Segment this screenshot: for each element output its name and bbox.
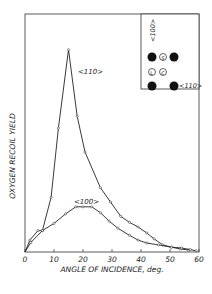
x-axis-ticks: 0102030405060 [23,249,204,264]
atom-filled [148,53,157,62]
data-point [189,249,191,251]
data-point [128,221,130,223]
data-point [75,206,77,208]
data-point [170,246,172,248]
atom-label-c: C [161,70,165,76]
data-point [84,151,86,153]
x-tick-label: 50 [165,255,175,264]
x-tick-label: 40 [136,255,146,264]
data-point [137,239,139,241]
data-point [146,232,148,234]
x-tick-label: 0 [23,255,28,264]
data-point [109,201,111,203]
data-point [67,49,69,51]
inset-label-100: <100> [149,19,157,42]
x-tick-label: 20 [78,255,88,264]
atom-filled [148,82,157,91]
curve-label-110: <110> [78,68,103,76]
data-point [76,115,78,117]
x-tick-label: 60 [194,255,204,264]
data-point [153,238,155,240]
data-point [37,230,39,232]
inset-label-110: <110> [179,82,202,90]
data-point [30,241,32,243]
data-point [181,247,183,249]
atom-filled [170,82,179,91]
data-point [41,230,43,232]
data-point [99,212,101,214]
data-point [120,215,122,217]
inset-crystal-diagram: <100> S L C <110> [141,14,202,91]
curve-label-100: <100> [74,198,99,206]
data-point [91,206,93,208]
data-point [108,220,110,222]
data-point [82,206,84,208]
data-point [146,242,148,244]
data-point [117,227,119,229]
data-point [50,196,52,198]
chart: <100> S L C <110> <110> <100> 0102030405… [0,0,212,294]
data-point [99,187,101,189]
data-point [157,244,159,246]
atom-label-l: L [150,70,153,76]
x-axis-label: ANGLE OF INCIDENCE, deg. [59,265,163,274]
data-point [65,213,67,215]
series-line-100 [25,207,196,252]
data-point [195,250,197,252]
x-tick-label: 30 [107,255,117,264]
data-point [128,234,130,236]
data-point [29,239,31,241]
x-tick-label: 10 [49,255,59,264]
atom-filled [170,53,179,62]
y-axis-label: OXYGEN RECOIL YIELD [8,113,17,199]
data-point [57,127,59,129]
data-point [137,226,139,228]
data-point [53,222,55,224]
